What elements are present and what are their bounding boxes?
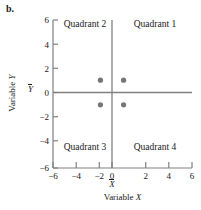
x-axis-ticks	[53, 162, 192, 168]
quadrant-4-label: Quadrant 4	[134, 142, 177, 152]
y-tick-label-0: 0	[45, 88, 50, 98]
quadrant-2-label: Quadrant 2	[64, 19, 107, 29]
y-axis-tick-labels: 6 4 2 0 −2 −4 −6	[39, 15, 49, 173]
x-tick-label-minus2: −2	[95, 171, 105, 181]
quadrant-1-label: Quadrant 1	[134, 19, 177, 29]
x-tick-label-2: 2	[143, 171, 148, 181]
y-tick-label-minus2: −2	[39, 112, 49, 122]
x-axis-tick-labels: −6 −4 −2 0 2 4 6	[48, 171, 195, 181]
data-point	[121, 102, 126, 107]
quadrant-3-label: Quadrant 3	[64, 142, 107, 152]
data-point	[98, 102, 103, 107]
x-tick-label-minus6: −6	[48, 171, 58, 181]
data-point	[98, 78, 103, 83]
plot-area: 6 4 2 0 −2 −4 −6 −6 −4 −2 0 2 4 6	[0, 0, 201, 210]
scatter-figure: b. Variable Y Variable X Y X 6 4	[0, 0, 201, 210]
data-point	[121, 78, 126, 83]
x-tick-label-0: 0	[110, 171, 115, 181]
x-tick-label-4: 4	[167, 171, 172, 181]
y-tick-label-4: 4	[45, 40, 50, 50]
x-tick-label-minus4: −4	[71, 171, 81, 181]
y-tick-label-6: 6	[45, 15, 50, 25]
y-tick-label-minus4: −4	[39, 136, 49, 146]
y-axis-ticks	[53, 20, 58, 168]
x-tick-label-6: 6	[190, 171, 195, 181]
y-tick-label-2: 2	[45, 64, 50, 74]
